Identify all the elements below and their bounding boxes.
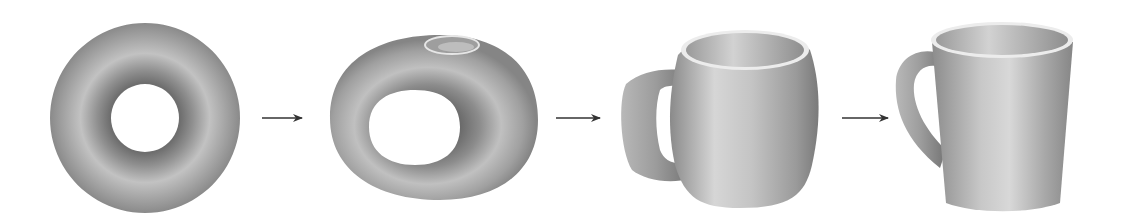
torus-shape — [50, 23, 240, 213]
coffee-mug-shape — [896, 22, 1073, 211]
mug-body — [932, 42, 1073, 211]
dented-torus-shape — [330, 35, 538, 200]
torus-to-mug-diagram — [0, 0, 1121, 223]
rounded-mug-shape — [621, 30, 818, 208]
mug-opening — [936, 25, 1068, 55]
mug-opening — [686, 33, 804, 67]
